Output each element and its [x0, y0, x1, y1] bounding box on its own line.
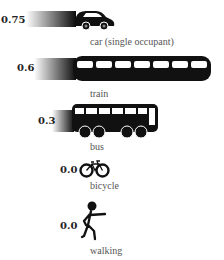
train-speed-trail [34, 58, 76, 80]
walking-label: walking [90, 245, 122, 256]
bicycle-value: 0.0 [60, 164, 77, 175]
car-label: car (single occupant) [90, 36, 174, 47]
walking-person-icon [80, 201, 110, 243]
bus-label: bus [90, 141, 104, 152]
car-value: 0.75 [1, 14, 25, 25]
walking-value: 0.0 [60, 220, 77, 231]
car-icon [74, 9, 116, 31]
bicycle-icon [79, 160, 110, 178]
bus-icon [71, 103, 159, 139]
bicycle-label: bicycle [90, 180, 119, 191]
train-value: 0.6 [17, 62, 34, 73]
train-icon [72, 55, 212, 82]
car-speed-trail [26, 11, 76, 27]
train-label: train [90, 88, 108, 99]
